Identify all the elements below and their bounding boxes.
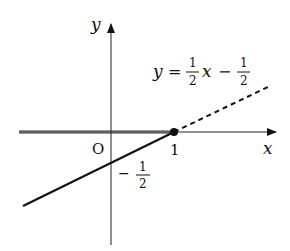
- neg-half-den: 2: [139, 177, 147, 191]
- eq-lhs: y: [152, 61, 163, 81]
- graph-figure: y x O 1 − 1 2 y = 1 2 x − 1 2: [0, 0, 290, 251]
- point-marker: [170, 128, 178, 136]
- eq-frac1-den: 2: [189, 74, 197, 88]
- tick-label-one: 1: [170, 141, 180, 159]
- neg-half-num: 1: [139, 160, 147, 174]
- origin-label: O: [92, 140, 104, 158]
- eq-frac2-den: 2: [240, 74, 248, 88]
- eq-equals: =: [168, 62, 181, 81]
- eq-frac1-num: 1: [189, 56, 197, 70]
- eq-var: x: [202, 61, 212, 81]
- eq-minus: −: [218, 62, 231, 81]
- y-axis-label: y: [90, 14, 101, 34]
- eq-frac2-num: 1: [240, 56, 248, 70]
- dashed-line-segment: [174, 86, 270, 132]
- x-axis-label: x: [263, 138, 273, 158]
- graph-svg: y x O 1 − 1 2 y = 1 2 x − 1 2: [0, 0, 290, 251]
- neg-half-sign: −: [118, 165, 130, 181]
